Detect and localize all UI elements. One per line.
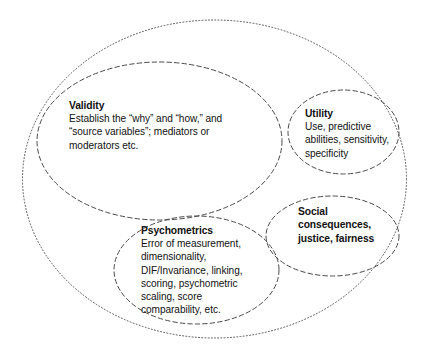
validity-line-3: moderators etc. (69, 139, 222, 152)
psychometrics-line-3: DIF/Invariance, linking, (141, 264, 242, 277)
utility-line-3: specificity (305, 147, 389, 160)
social-consequences-line-2: justice, fairness (298, 232, 374, 245)
psychometrics-line-5: scaling, score (141, 290, 242, 303)
validity-line-2: “source variables”; mediators or (69, 125, 222, 138)
utility-label-block: Utility Use, predictive abilities, sensi… (305, 107, 389, 160)
social-consequences-line-1: consequences, (298, 218, 374, 231)
psychometrics-line-1: Error of measurement, (141, 237, 242, 250)
social-consequences-heading: Social (298, 205, 374, 218)
psychometrics-label-block: Psychometrics Error of measurement, dime… (141, 224, 242, 316)
validity-line-1: Establish the “why” and “how,” and (69, 112, 222, 125)
social-consequences-label-block: Social consequences, justice, fairness (298, 205, 374, 245)
psychometrics-heading: Psychometrics (141, 224, 242, 237)
validity-heading: Validity (69, 99, 222, 112)
psychometrics-line-2: dimensionality, (141, 250, 242, 263)
diagram-canvas: Validity Establish the “why” and “how,” … (0, 0, 423, 354)
validity-label-block: Validity Establish the “why” and “how,” … (69, 99, 222, 152)
utility-line-2: abilities, sensitivity, (305, 133, 389, 146)
psychometrics-line-4: scoring, psychometric (141, 277, 242, 290)
utility-heading: Utility (305, 107, 389, 120)
psychometrics-line-6: comparability, etc. (141, 303, 242, 316)
utility-line-1: Use, predictive (305, 120, 389, 133)
